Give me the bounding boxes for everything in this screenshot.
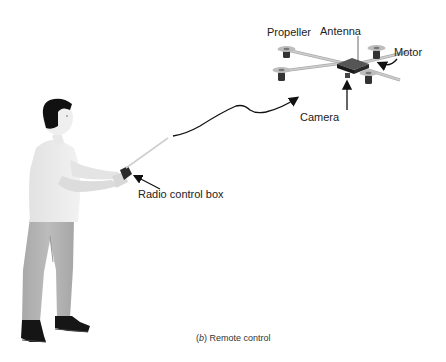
label-radio-control-box: Radio control box (138, 189, 224, 200)
label-camera: Camera (300, 112, 339, 123)
remote-control-figure: Propeller Antenna Motor Camera Radio con… (0, 0, 446, 362)
label-antenna: Antenna (320, 26, 361, 37)
caption-text: Remote control (210, 333, 271, 343)
figure-caption: (b) Remote control (196, 334, 271, 343)
motor-back-right (360, 70, 378, 84)
caption-close-paren: ) (204, 333, 207, 343)
label-propeller: Propeller (267, 27, 311, 38)
shirt (29, 140, 122, 222)
motor-arrow (379, 59, 397, 65)
head (43, 99, 73, 146)
pants (22, 218, 74, 322)
motor-back-left (273, 67, 291, 81)
signal-wave (173, 98, 297, 136)
label-motor: Motor (394, 47, 422, 58)
camera-module (345, 73, 350, 78)
quadcopter-drone (273, 36, 408, 84)
person (21, 99, 168, 342)
illustration (0, 0, 446, 362)
radio-control-box (120, 138, 168, 180)
